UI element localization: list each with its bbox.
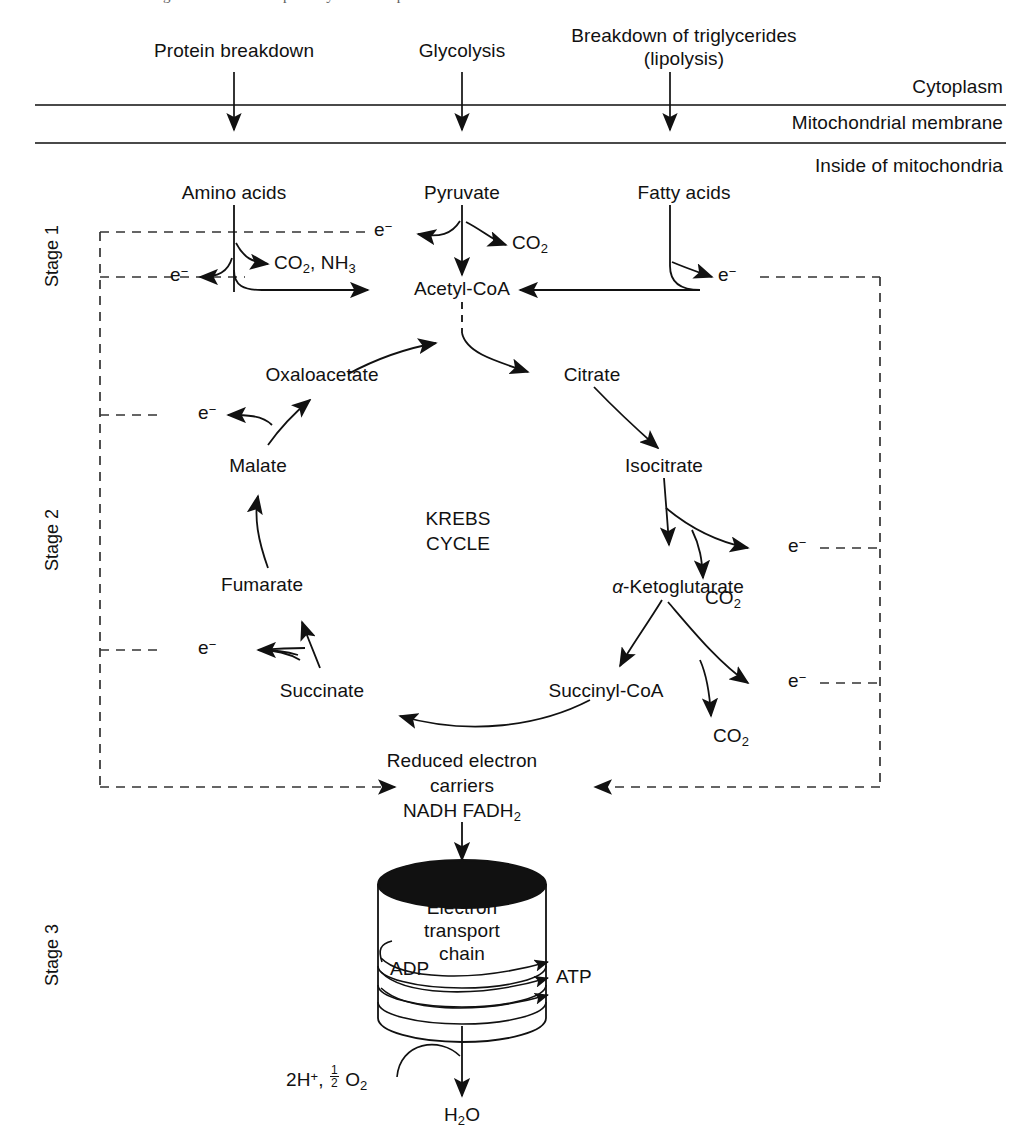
label-electron-aminoacids: e−	[170, 264, 188, 287]
arrow-citrate-to-isocitrate	[594, 387, 658, 448]
label-krebs-cycle-line2: CYCLE	[426, 533, 490, 555]
label-citrate: Citrate	[564, 364, 621, 386]
label-co2-isocitrate: CO2	[705, 587, 741, 611]
label-reduced-carriers-line1: Reduced electron	[387, 750, 538, 772]
label-protein-breakdown: Protein breakdown	[154, 40, 314, 62]
arrow-aminoacids-to-co2nh3	[236, 243, 268, 264]
label-electron-isocitrate: e−	[788, 535, 806, 558]
label-electron-succinate: e−	[198, 637, 216, 660]
label-co2-pyruvate: CO2	[512, 232, 548, 256]
label-lipolysis-line2: (lipolysis)	[644, 48, 724, 70]
figure-canvas: FIGURE The three stages of the catabolic…	[0, 0, 1030, 1144]
arrow-aminoacids-to-electron	[200, 258, 232, 277]
label-electron-malate: e−	[198, 402, 216, 425]
label-cytoplasm: Cytoplasm	[912, 76, 1003, 98]
label-atp: ATP	[556, 966, 592, 988]
input-arrows	[234, 72, 670, 130]
label-amino-acids: Amino acids	[182, 182, 287, 204]
acetylcoa-to-citrate	[462, 302, 528, 372]
arrow-isocitrate-to-electron	[666, 508, 748, 548]
arrow-succinylcoa-to-succinate	[400, 700, 590, 727]
label-isocitrate: Isocitrate	[625, 455, 703, 477]
label-etc-line1: Electron	[427, 897, 498, 919]
label-succinate: Succinate	[280, 680, 364, 702]
label-electron-fattyacids: e−	[718, 264, 736, 287]
label-lipolysis-line1: Breakdown of triglycerides	[571, 25, 796, 47]
arrow-pyruvate-to-electron	[418, 221, 460, 235]
label-co2-nh3: CO2, NH3	[274, 252, 356, 276]
label-electron-pyruvate: e−	[374, 219, 392, 242]
label-etc-line3: chain	[439, 943, 485, 965]
arrow-isocitrate-to-ketoglutarate	[664, 478, 669, 545]
arrow-fattyacids-to-electron	[672, 262, 712, 277]
label-malate: Malate	[229, 455, 287, 477]
label-acetyl-coa: Acetyl-CoA	[414, 278, 510, 300]
label-substrate-2h-o2: 2H+, 12 O2	[286, 1064, 367, 1093]
arrow-succinate-electron-h	[258, 648, 305, 650]
arrow-fumarate-to-malate	[256, 496, 268, 568]
arrow-acetylcoa-to-citrate	[462, 333, 528, 372]
arrow-ketoglutarate-to-electron2	[668, 602, 748, 683]
label-electron-ketoglutarate: e−	[788, 670, 806, 693]
label-co2-ketoglutarate: CO2	[713, 725, 749, 749]
label-adp: ADP	[390, 958, 429, 980]
stage-label-3: Stage 3	[42, 924, 63, 986]
label-water: H2O	[444, 1104, 480, 1128]
label-mitochondrial-membrane: Mitochondrial membrane	[792, 112, 1003, 134]
label-glycolysis: Glycolysis	[419, 40, 506, 62]
arrow-malate-to-oxaloacetate	[268, 400, 310, 445]
label-fumarate: Fumarate	[221, 574, 303, 596]
label-pyruvate: Pyruvate	[424, 182, 500, 204]
label-inside-of-mitochondria: Inside of mitochondria	[815, 155, 1003, 177]
stage-label-1: Stage 1	[42, 225, 63, 287]
arrow-isocitrate-to-co2	[692, 530, 703, 578]
arrow-ketoglutarate-to-co2-2	[700, 660, 711, 716]
label-reduced-carriers-line2: carriers	[430, 775, 494, 797]
label-krebs-cycle-line1: KREBS	[426, 508, 491, 530]
arrow-pyruvate-to-co2	[466, 222, 506, 245]
arrow-malate-to-electron	[228, 415, 272, 425]
label-succinyl-coa: Succinyl-CoA	[548, 680, 663, 702]
line-fattyacids-stem	[670, 205, 700, 290]
arrow-succinate-to-fumarate	[302, 622, 320, 668]
label-oxaloacetate: Oxaloacetate	[265, 364, 378, 386]
label-etc-line2: transport	[424, 920, 500, 942]
cylinder-ring-3	[378, 1002, 546, 1024]
stage-label-2: Stage 2	[42, 509, 63, 571]
label-nadh-fadh2: NADH FADH2	[403, 800, 521, 824]
arc-substrate-to-water	[397, 1045, 460, 1077]
label-fatty-acids: Fatty acids	[638, 182, 731, 204]
arrow-ketoglutarate-to-succinylcoa	[620, 600, 662, 666]
